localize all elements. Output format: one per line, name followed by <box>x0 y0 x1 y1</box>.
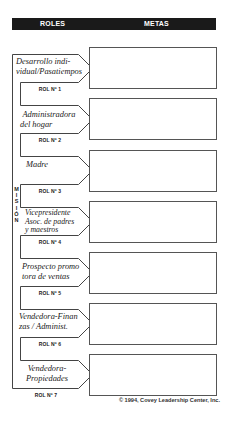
mission-letter: N <box>14 217 19 223</box>
role-text-line: Desarrollo indi- <box>16 57 78 67</box>
mission-letter: S <box>14 198 19 204</box>
copyright-notice: © 1994, Covey Leadership Center, Inc. <box>96 397 220 403</box>
role-text-line: Administradora <box>18 110 80 120</box>
role-6-goals-box[interactable] <box>89 303 217 345</box>
role-text-line: Propiedades <box>16 374 78 384</box>
role-2-number: ROL Nº 2 <box>22 137 78 143</box>
role-text-line: tora de ventas <box>22 272 84 282</box>
role-text-line: Prospecto promo <box>22 262 84 272</box>
role-1-goals-box[interactable] <box>89 47 217 89</box>
role-3-goals-box[interactable] <box>89 150 217 192</box>
role-7-name: Vendedora- Propiedades <box>16 364 78 384</box>
role-3-number: ROL Nº 3 <box>22 188 78 194</box>
role-2-goals-box[interactable] <box>89 98 217 140</box>
role-text-line: del hogar <box>18 120 80 130</box>
role-1-number: ROL Nº 1 <box>22 86 78 92</box>
role-5-number: ROL Nº 5 <box>22 290 78 296</box>
role-5-name: Prospecto promo tora de ventas <box>22 262 84 282</box>
role-7-goals-box[interactable] <box>89 354 217 396</box>
role-3-name: Madre <box>26 160 88 170</box>
role-1-name: Desarrollo indi- vidual/Pasatiempos <box>16 57 78 77</box>
mission-vertical-label: M I S I Ó N <box>14 186 19 223</box>
role-7-number: ROL Nº 7 <box>18 392 74 398</box>
role-4-name: Vicepresidente Asoc. de padres y maestro… <box>25 209 87 235</box>
role-text-line: Vendedora- <box>16 364 78 374</box>
role-text-line: y maestros <box>25 226 87 235</box>
role-text-line: Vendedora-Finan <box>19 312 81 322</box>
role-text-line: zas / Administ. <box>19 322 81 332</box>
role-6-name: Vendedora-Finan zas / Administ. <box>19 312 81 332</box>
role-4-number: ROL Nº 4 <box>22 239 78 245</box>
role-6-number: ROL Nº 6 <box>22 341 78 347</box>
role-2-name: Administradora del hogar <box>18 110 80 130</box>
role-4-goals-box[interactable] <box>89 201 217 243</box>
role-5-goals-box[interactable] <box>89 252 217 294</box>
role-text-line: Madre <box>26 160 88 170</box>
role-text-line: vidual/Pasatiempos <box>16 67 78 77</box>
